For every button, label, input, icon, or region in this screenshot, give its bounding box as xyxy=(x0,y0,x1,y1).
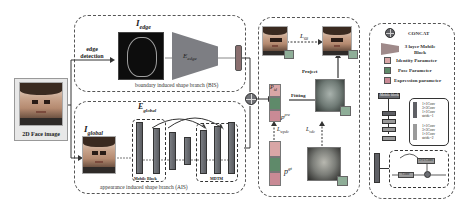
legend-attn-arrows xyxy=(0,0,459,208)
